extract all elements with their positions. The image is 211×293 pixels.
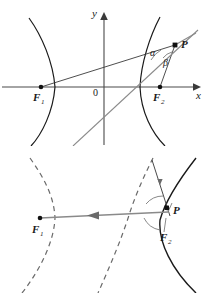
label-f1-letter: F xyxy=(32,91,41,103)
y-axis xyxy=(100,12,108,145)
label-f2-subscript: 2 xyxy=(161,98,165,106)
angle-arc-upper xyxy=(146,196,163,204)
figure-stack: y x 0 F 1 F 2 P α β xyxy=(0,0,211,293)
ray-segment-lower xyxy=(164,218,166,232)
label-f2-subscript: 2 xyxy=(168,238,172,246)
figure-bottom-svg: F 1 F 2 P xyxy=(0,146,211,293)
label-angle-alpha: α xyxy=(150,47,156,58)
point-marker-f1 xyxy=(39,85,44,90)
label-angle-beta: β xyxy=(162,57,168,68)
angle-arc-lower xyxy=(144,218,160,230)
label-f2-letter: F xyxy=(152,91,161,103)
label-p: P xyxy=(173,204,180,216)
label-p: P xyxy=(181,38,188,50)
point-marker-f1 xyxy=(38,216,43,221)
point-marker-p xyxy=(165,206,169,210)
tangent-line-through-p xyxy=(73,30,198,146)
hyperbola-auxiliary-branch-dashed xyxy=(98,158,153,293)
reflected-ray-arrowhead xyxy=(87,212,99,220)
figure-bottom: F 1 F 2 P xyxy=(0,146,211,293)
origin-label: 0 xyxy=(93,87,98,98)
label-f2: F 2 xyxy=(159,231,172,246)
incident-ray-arrowhead xyxy=(157,179,162,185)
point-marker-f2 xyxy=(158,85,163,90)
point-marker-p xyxy=(173,43,178,48)
hyperbola-right-branch xyxy=(140,17,165,146)
label-f1-letter: F xyxy=(31,223,40,235)
label-f2-letter: F xyxy=(159,231,168,243)
y-axis-label: y xyxy=(91,7,97,19)
x-axis xyxy=(2,83,201,91)
x-axis-label: x xyxy=(195,89,201,101)
hyperbola-left-branch xyxy=(29,18,55,146)
reflected-ray-p-to-f1 xyxy=(40,212,168,218)
label-f1-subscript: 1 xyxy=(40,230,44,238)
label-f1: F 1 xyxy=(32,91,45,106)
label-f2: F 2 xyxy=(152,91,165,106)
figure-top: y x 0 F 1 F 2 P α β xyxy=(0,0,211,146)
figure-top-svg: y x 0 F 1 F 2 P α β xyxy=(0,0,211,146)
label-f1: F 1 xyxy=(31,223,44,238)
label-f1-subscript: 1 xyxy=(41,98,45,106)
